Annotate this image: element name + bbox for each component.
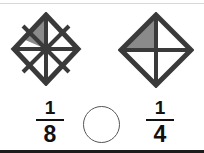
right-fraction-numerator: 1 xyxy=(138,98,182,117)
right-fraction-denominator: 4 xyxy=(138,123,182,147)
left-fraction-numerator: 1 xyxy=(28,98,72,117)
left-fraction-label: 1 8 xyxy=(28,98,72,147)
comparison-answer-circle[interactable] xyxy=(83,106,120,143)
top-divider xyxy=(0,3,204,4)
right-fraction-label: 1 4 xyxy=(138,98,182,147)
right-fraction-diagram xyxy=(118,12,194,88)
bottom-divider xyxy=(0,150,204,153)
worksheet-page: 1 8 1 4 xyxy=(0,0,204,153)
left-fraction-denominator: 8 xyxy=(28,123,72,147)
left-fraction-diagram xyxy=(10,12,82,86)
